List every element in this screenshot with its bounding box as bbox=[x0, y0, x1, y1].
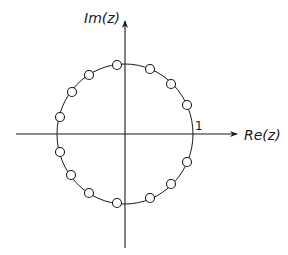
zero-marker bbox=[56, 148, 65, 157]
zero-marker bbox=[68, 88, 77, 97]
unit-tick-label: 1 bbox=[195, 119, 203, 133]
zero-marker bbox=[113, 199, 122, 208]
zero-marker bbox=[167, 80, 176, 89]
zero-marker bbox=[56, 113, 65, 122]
zero-marker bbox=[85, 189, 94, 198]
zero-marker bbox=[67, 171, 76, 180]
zero-marker bbox=[113, 61, 122, 70]
zero-marker bbox=[146, 65, 155, 74]
zero-marker bbox=[183, 101, 192, 110]
zero-marker bbox=[183, 158, 192, 167]
z-plane-diagram: Re(z) Im(z) 1 bbox=[0, 0, 288, 255]
imaginary-axis-label: Im(z) bbox=[84, 10, 120, 26]
real-axis-label: Re(z) bbox=[244, 127, 281, 143]
zero-marker bbox=[85, 71, 94, 80]
zero-marker bbox=[167, 180, 176, 189]
zero-marker bbox=[146, 194, 155, 203]
